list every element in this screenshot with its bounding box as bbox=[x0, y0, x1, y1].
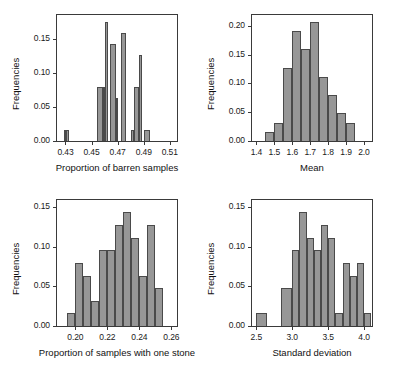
y-tick-label: 0.00 bbox=[213, 320, 245, 330]
histogram-bar bbox=[299, 212, 306, 326]
histogram-bar bbox=[364, 313, 371, 326]
histogram-bar bbox=[357, 263, 364, 326]
y-tick-label: 0.10 bbox=[213, 241, 245, 251]
histogram-bar bbox=[335, 313, 342, 326]
x-tick-label: 3.5 bbox=[308, 332, 348, 342]
x-tick-label: 2.5 bbox=[236, 332, 276, 342]
histogram-bar bbox=[343, 263, 350, 326]
y-tick-label: 0.05 bbox=[213, 280, 245, 290]
histogram-bar bbox=[292, 250, 299, 326]
x-tick-mark bbox=[256, 327, 257, 330]
x-tick-mark bbox=[328, 327, 329, 330]
y-tick-label: 0.15 bbox=[213, 201, 245, 211]
y-tick-mark bbox=[248, 247, 251, 248]
y-tick-mark bbox=[248, 286, 251, 287]
plot-area bbox=[251, 199, 373, 327]
y-tick-mark bbox=[248, 326, 251, 327]
x-tick-mark bbox=[292, 327, 293, 330]
histogram-bar bbox=[256, 313, 267, 326]
x-tick-mark bbox=[364, 327, 365, 330]
panel-bottom-right: 0.000.050.100.152.53.03.54.0Standard dev… bbox=[0, 0, 393, 375]
histogram-bar bbox=[307, 238, 314, 326]
y-axis-label: Frequencies bbox=[205, 243, 216, 295]
y-tick-mark bbox=[248, 207, 251, 208]
histogram-bar bbox=[350, 276, 357, 326]
x-tick-label: 3.0 bbox=[272, 332, 312, 342]
histogram-bar bbox=[314, 250, 321, 326]
histogram-bar bbox=[321, 225, 328, 326]
histogram-bar bbox=[281, 288, 292, 326]
x-tick-label: 4.0 bbox=[344, 332, 384, 342]
x-axis-label: Standard deviation bbox=[202, 347, 393, 358]
bar-group bbox=[252, 200, 372, 326]
histogram-figure: 0.000.050.100.150.430.450.470.490.51Prop… bbox=[0, 0, 393, 375]
histogram-bar bbox=[328, 238, 335, 326]
